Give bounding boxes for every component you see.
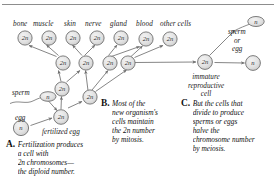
skin-cell-ploidy: 2n <box>70 34 77 41</box>
tissue-label-skin: skin <box>64 20 76 28</box>
precursor-cell-1-ploidy: 2n <box>60 59 67 66</box>
tissue-label-blood: blood <box>136 20 153 28</box>
fertilized-egg-annotation: fertilized egg <box>42 128 80 137</box>
tissue-label-nerve: nerve <box>85 20 101 28</box>
precursor-cell-3: 2n <box>103 56 117 70</box>
caption-a-body: Fertilization produces a cell with 2n ch… <box>18 140 111 176</box>
bone-cell: 2n <box>18 31 32 45</box>
caption-c-line-6: by meiosis. <box>193 144 276 153</box>
nerve-cell-ploidy: 2n <box>94 34 101 41</box>
immature-reproductive-cell-annotation: immature reproductive cell <box>173 73 239 99</box>
early-cell-right: 2n <box>83 90 97 104</box>
early-cell-left: 2n <box>55 82 69 96</box>
caption-b-line-2: new organism's <box>112 108 171 117</box>
skin-cell: 2n <box>66 31 80 45</box>
immature-reproductive-cell: 2n <box>198 55 213 70</box>
caption-c-line-5: chromosome number <box>193 135 276 144</box>
caption-c-line-2: divide to produce <box>193 108 276 117</box>
muscle-cell-ploidy: 2n <box>46 34 53 41</box>
caption-a-line-3: 2n chromosomes— <box>18 158 111 167</box>
caption-a-line-2: a cell with <box>18 149 111 158</box>
caption-a-line-1: Fertilization produces <box>18 140 111 149</box>
cleavage-arrows <box>61 97 82 110</box>
caption-c-body: But the cells that divide to produce spe… <box>193 99 276 154</box>
other-cell: 2n <box>163 32 177 46</box>
blood-cell-ploidy: 2n <box>143 35 150 42</box>
germline-arrow <box>135 62 196 63</box>
precursor-cell-3-ploidy: 2n <box>107 59 114 66</box>
caption-b-line-1: Most of the <box>112 99 171 108</box>
muscle-cell: 2n <box>42 31 56 45</box>
caption-b-line-4: the 2n number <box>112 126 171 135</box>
caption-b: B. Most of the new organism's cells main… <box>101 99 171 144</box>
top-row-cells: 2n 2n 2n 2n 2n 2n <box>18 31 177 46</box>
egg-product-cell: n <box>246 56 261 71</box>
sperm-tail-left <box>10 97 43 103</box>
middle-row-cells: 2n 2n 2n 2n <box>56 56 135 70</box>
immature-line-1: immature <box>173 73 239 82</box>
egg-annotation: egg <box>15 114 25 123</box>
fertilized-egg-ploidy: 2n <box>58 113 65 120</box>
gland-cell-ploidy: 2n <box>118 34 125 41</box>
caption-c: C. But the cells that divide to produce … <box>181 99 276 154</box>
bone-cell-ploidy: 2n <box>22 34 29 41</box>
sperm-gamete-cell: n <box>40 92 56 102</box>
caption-c-line-3: sperms or eggs <box>193 117 276 126</box>
early-cell-left-ploidy: 2n <box>59 85 66 92</box>
sperm-or-egg-line-2: or <box>234 37 246 46</box>
tissue-label-bone: bone <box>13 20 27 28</box>
precursor-cell-4: 2n <box>121 56 135 70</box>
nerve-cell: 2n <box>90 31 104 45</box>
tissue-label-gland: gland <box>110 20 127 28</box>
egg-gamete-cell: n <box>13 120 28 135</box>
sperm-or-egg-line-1: sperm <box>228 28 246 37</box>
precursor-cell-4-ploidy: 2n <box>125 59 132 66</box>
caption-c-line-1: But the cells that <box>193 99 276 108</box>
tissue-label-other-cells: other cells <box>160 20 191 28</box>
caption-b-line-3: cells maintain <box>112 117 171 126</box>
differentiation-arrows <box>29 45 163 58</box>
caption-c-line-4: halve the <box>193 126 276 135</box>
sperm-annotation: sperm <box>12 89 30 98</box>
caption-a-letter: A. <box>6 140 15 149</box>
caption-c-letter: C. <box>181 99 190 108</box>
blood-cell: 2n <box>139 32 153 46</box>
immature-reproductive-ploidy: 2n <box>202 58 209 65</box>
tissue-label-muscle: muscle <box>33 20 54 28</box>
fertilization-arrows <box>31 101 58 126</box>
sperm-product-cell: n <box>248 17 264 27</box>
caption-b-letter: B. <box>101 99 110 108</box>
precursor-cell-1: 2n <box>56 56 70 70</box>
other-cell-ploidy: 2n <box>167 35 174 42</box>
immature-line-2: reproductive <box>173 82 239 91</box>
caption-b-body: Most of the new organism's cells maintai… <box>112 99 171 144</box>
figure-root: 2n 2n 2n 2n 2n 2n <box>0 0 279 185</box>
sperm-or-egg-annotation: sperm or egg <box>228 28 246 54</box>
caption-a: A. Fertilization produces a cell with 2n… <box>6 140 111 176</box>
precursor-cell-2: 2n <box>79 56 93 70</box>
caption-b-line-5: by mitosis. <box>112 135 171 144</box>
caption-a-line-4: the diploid number. <box>18 167 111 176</box>
precursor-cell-2-ploidy: 2n <box>83 59 90 66</box>
sperm-or-egg-line-3: egg <box>232 45 246 54</box>
gland-cell: 2n <box>114 31 128 45</box>
early-cell-right-ploidy: 2n <box>87 93 94 100</box>
fertilized-egg-cell: 2n <box>54 110 69 125</box>
